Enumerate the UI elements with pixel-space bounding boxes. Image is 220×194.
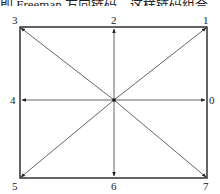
label-7: 7 bbox=[203, 181, 209, 192]
label-4: 4 bbox=[10, 95, 16, 106]
label-2: 2 bbox=[111, 15, 117, 26]
chain-code-diagram bbox=[0, 0, 220, 194]
direction-3-arrow bbox=[21, 28, 114, 100]
label-5: 5 bbox=[12, 181, 18, 192]
direction-7-arrow bbox=[114, 100, 206, 177]
center-point bbox=[113, 99, 116, 102]
label-3: 3 bbox=[12, 15, 18, 26]
label-1: 1 bbox=[203, 15, 209, 26]
direction-1-arrow bbox=[114, 28, 206, 100]
direction-5-arrow bbox=[21, 100, 114, 177]
label-0: 0 bbox=[209, 95, 215, 106]
label-6: 6 bbox=[111, 181, 117, 192]
